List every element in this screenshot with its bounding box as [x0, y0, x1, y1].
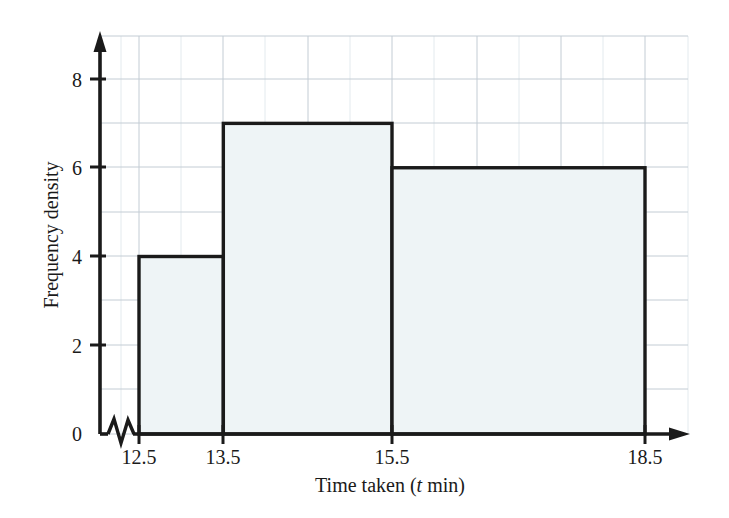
x-tick-label-12-5: 12.5	[122, 446, 157, 468]
y-tick-label-2: 2	[72, 335, 82, 357]
y-tick-label-6: 6	[72, 157, 82, 179]
y-tick-label-4: 4	[72, 246, 82, 268]
histogram-bar-3	[392, 168, 645, 434]
x-axis-title-after: min)	[422, 474, 465, 497]
histogram-bar-1	[139, 257, 223, 435]
x-tick-label-13-5: 13.5	[206, 446, 241, 468]
y-tick-label-8: 8	[72, 69, 82, 91]
histogram-chart: 0 2 4 6 8 12.5 13.5 15.5 18.5 Time taken…	[0, 0, 729, 518]
x-tick-label-15-5: 15.5	[375, 446, 410, 468]
x-tick-label-18-5: 18.5	[628, 446, 663, 468]
y-tick-label-0: 0	[72, 423, 82, 445]
histogram-figure: 0 2 4 6 8 12.5 13.5 15.5 18.5 Time taken…	[0, 0, 729, 518]
histogram-bar-2	[223, 123, 392, 434]
y-axis-title: Frequency density	[40, 161, 63, 308]
x-axis-title-before: Time taken (	[315, 474, 417, 497]
x-axis-title: Time taken (t min)	[315, 474, 465, 497]
